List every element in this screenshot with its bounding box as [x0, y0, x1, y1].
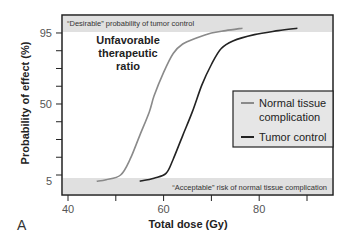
y-tick-label: 50: [40, 98, 52, 110]
chart-svg: 406080 55095 “Desirable” probability of …: [0, 0, 351, 249]
acceptable-band-label: “Acceptable” risk of normal tissue compl…: [172, 183, 327, 192]
y-axis-ticks: 55095: [40, 27, 62, 187]
desirable-band-label: “Desirable” probability of tumor control: [67, 19, 194, 28]
y-tick-label: 95: [40, 27, 52, 39]
x-axis-title: Total dose (Gy): [148, 218, 228, 230]
x-tick-label: 80: [253, 203, 265, 215]
y-tick-label: 5: [46, 175, 52, 187]
legend-label-normal-tissue-1: Normal tissue: [259, 97, 326, 109]
annotation-line-2: therapeutic: [98, 47, 157, 59]
legend: Normal tissue complication Tumor control: [233, 91, 333, 147]
legend-label-tumor-control: Tumor control: [259, 131, 326, 143]
x-tick-label: 60: [157, 203, 169, 215]
annotation-line-1: Unfavorable: [96, 34, 160, 46]
x-tick-label: 40: [62, 203, 74, 215]
y-axis-title: Probability of effect (%): [19, 41, 31, 164]
annotation-line-3: ratio: [116, 60, 140, 72]
legend-label-normal-tissue-2: complication: [259, 111, 320, 123]
panel-label: A: [17, 217, 27, 233]
x-axis-ticks: 406080: [62, 195, 307, 215]
